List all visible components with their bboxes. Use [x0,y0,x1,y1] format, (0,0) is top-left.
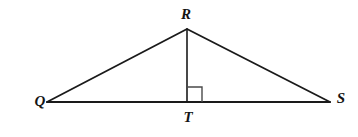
triangle-outline [47,29,330,102]
vertex-label-s: S [337,91,345,106]
segment-rs [187,29,330,102]
vertex-label-q: Q [35,94,46,109]
vertex-label-t: T [183,110,192,125]
segment-qr [47,29,187,102]
right-angle-marker [187,87,202,102]
geometry-figure: R Q S T [0,0,358,137]
vertex-label-r: R [181,7,191,22]
triangle-diagram-svg [0,0,358,137]
right-angle-icon [187,87,202,102]
